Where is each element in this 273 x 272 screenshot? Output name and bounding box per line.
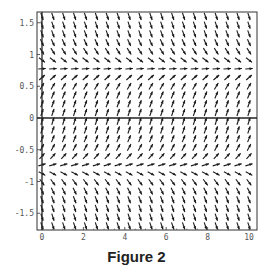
y-axis-ticks: -1.5-1-0.500.511.5	[15, 19, 40, 219]
x-tick-label: 4	[122, 233, 127, 240]
y-tick-label: -1	[24, 178, 34, 187]
figure-caption: Figure 2	[0, 248, 273, 265]
x-tick-label: 0	[40, 233, 45, 240]
slope-field-arrows	[38, 13, 252, 230]
x-tick-label: 2	[81, 233, 86, 240]
x-tick-label: 6	[164, 233, 169, 240]
y-tick-label: 0	[29, 114, 34, 123]
y-tick-label: 0.5	[20, 82, 35, 91]
x-tick-label: 8	[205, 233, 210, 240]
plot-frame	[37, 12, 257, 230]
vector-field-plot: 0246810 -1.5-1-0.500.511.5	[0, 0, 273, 240]
y-tick-label: -0.5	[15, 146, 34, 155]
x-axis-ticks: 0246810	[40, 227, 254, 240]
y-tick-label: 1	[29, 51, 34, 60]
y-tick-label: -1.5	[15, 209, 34, 218]
y-tick-label: 1.5	[20, 19, 35, 28]
x-tick-label: 10	[244, 233, 254, 240]
